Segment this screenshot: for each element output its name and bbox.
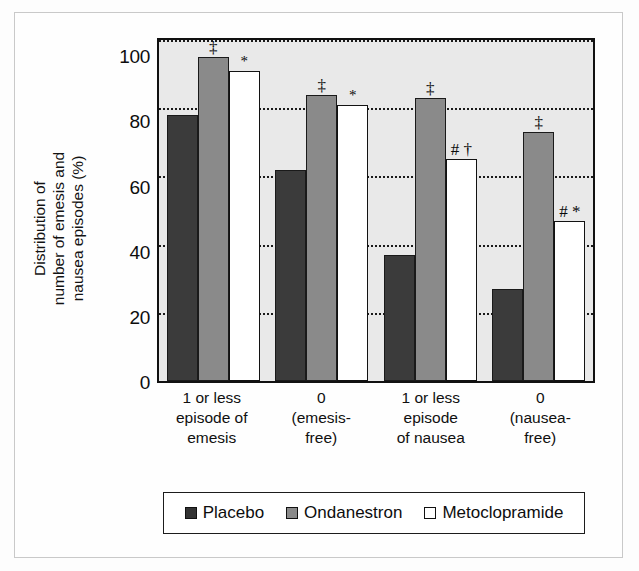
significance-mark-ondan-3: ‡ — [535, 114, 544, 131]
significance-mark-metoclo-3: # * — [559, 203, 580, 220]
x-label-2: 1 or lessepisodeof nausea — [376, 388, 486, 448]
y-axis-tick-labels: 100 80 60 40 20 0 — [98, 0, 150, 571]
y-axis-title: Distribution of number of emesis and nau… — [30, 79, 87, 379]
bar-metoclo-1[interactable]: * — [337, 105, 368, 381]
bar-ondan-0[interactable]: ‡ — [198, 57, 229, 381]
bar-placebo-2[interactable] — [384, 255, 415, 381]
significance-mark-ondan-0: ‡ — [209, 39, 218, 56]
significance-mark-metoclo-2: # † — [451, 141, 472, 158]
legend-label-ondan: Ondanestron — [304, 503, 402, 523]
significance-mark-ondan-1: ‡ — [318, 77, 327, 94]
legend-swatch-ondan — [286, 507, 298, 519]
x-label-0-l1: 1 or less — [157, 388, 267, 408]
figure-root: Distribution of number of emesis and nau… — [0, 0, 639, 571]
x-label-1-l2: (emesis- — [267, 408, 377, 428]
y-tick-60: 60 — [104, 177, 150, 199]
legend-label-metoclo: Metoclopramide — [442, 503, 563, 523]
legend-swatch-placebo — [185, 507, 197, 519]
bar-group-1: ‡* — [268, 40, 377, 381]
bar-ondan-3[interactable]: ‡ — [523, 132, 554, 381]
bar-placebo-1[interactable] — [275, 170, 306, 381]
y-axis-title-line-3: nausea episodes (%) — [68, 79, 87, 379]
y-axis-title-line-2: number of emesis and — [49, 79, 68, 379]
bar-placebo-0[interactable] — [167, 115, 198, 381]
y-tick-100: 100 — [104, 46, 150, 68]
y-tick-80: 80 — [104, 111, 150, 133]
x-label-1-l1: 0 — [267, 388, 377, 408]
bar-metoclo-0[interactable]: * — [229, 71, 260, 381]
bar-groups: ‡*‡*‡# †‡# * — [159, 40, 593, 381]
significance-mark-ondan-2: ‡ — [426, 80, 435, 97]
y-tick-0: 0 — [104, 372, 150, 394]
significance-mark-metoclo-0: * — [241, 53, 249, 70]
x-label-1: 0(emesis-free) — [267, 388, 377, 448]
y-tick-40: 40 — [104, 242, 150, 264]
legend-item-1[interactable]: Ondanestron — [286, 503, 402, 523]
x-axis-category-labels: 1 or lessepisode ofemesis0(emesis-free)1… — [157, 388, 595, 448]
x-label-0-l3: emesis — [157, 428, 267, 448]
bar-metoclo-3[interactable]: # * — [554, 221, 585, 381]
x-label-3: 0(nausea-free) — [486, 388, 596, 448]
legend-swatch-metoclo — [424, 507, 436, 519]
y-tick-20: 20 — [104, 307, 150, 329]
x-label-3-l2: (nausea- — [486, 408, 596, 428]
significance-mark-metoclo-1: * — [349, 87, 357, 104]
legend-item-2[interactable]: Metoclopramide — [424, 503, 563, 523]
legend-item-0[interactable]: Placebo — [185, 503, 264, 523]
x-label-0: 1 or lessepisode ofemesis — [157, 388, 267, 448]
x-label-1-l3: free) — [267, 428, 377, 448]
x-label-0-l2: episode of — [157, 408, 267, 428]
bar-metoclo-2[interactable]: # † — [446, 159, 477, 381]
bar-placebo-3[interactable] — [492, 289, 523, 381]
bar-group-0: ‡* — [159, 40, 268, 381]
x-label-3-l3: free) — [486, 428, 596, 448]
x-label-2-l3: of nausea — [376, 428, 486, 448]
y-axis-title-line-1: Distribution of — [30, 79, 49, 379]
x-label-3-l1: 0 — [486, 388, 596, 408]
bar-group-2: ‡# † — [376, 40, 485, 381]
bar-ondan-1[interactable]: ‡ — [306, 95, 337, 381]
x-label-2-l2: episode — [376, 408, 486, 428]
bar-ondan-2[interactable]: ‡ — [415, 98, 446, 381]
plot-area: ‡*‡*‡# †‡# * — [157, 38, 595, 383]
x-label-2-l1: 1 or less — [376, 388, 486, 408]
legend: PlaceboOndanestronMetoclopramide — [163, 492, 585, 534]
bar-group-3: ‡# * — [485, 40, 594, 381]
legend-label-placebo: Placebo — [203, 503, 264, 523]
